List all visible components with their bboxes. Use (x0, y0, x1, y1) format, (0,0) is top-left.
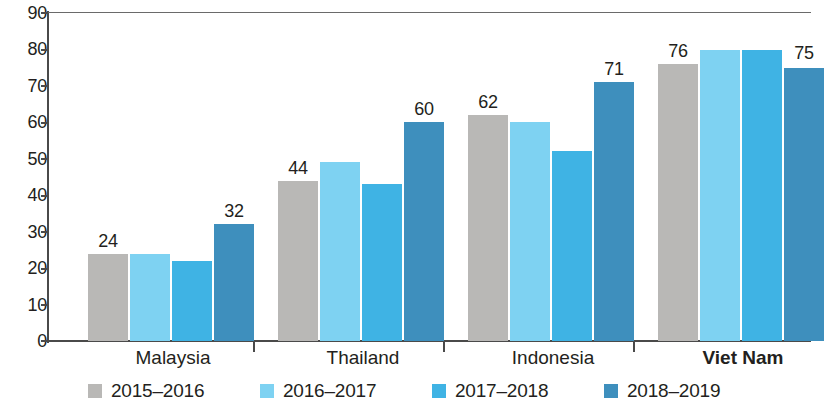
legend-swatch-icon-2015-2016 (88, 384, 102, 398)
legend-item-2016-2017[interactable]: 2016–2017 (260, 378, 376, 403)
legend-label-2017-2018: 2017–2018 (455, 381, 548, 400)
bar-indonesia-2017-2018[interactable] (552, 151, 592, 341)
x-axis-label-thailand: Thailand (263, 347, 463, 369)
data-label-thailand-2015-2016: 44 (272, 159, 324, 177)
bar-viet-nam-2017-2018[interactable] (742, 50, 782, 341)
legend-item-2015-2016[interactable]: 2015–2016 (88, 378, 204, 403)
bar-malaysia-2017-2018[interactable] (172, 261, 212, 341)
legend: 2015–2016 2016–2017 2017–2018 2018–2019 (0, 378, 815, 403)
data-label-thailand-2018-2019: 60 (398, 100, 450, 118)
bar-malaysia-2015-2016[interactable] (88, 254, 128, 341)
data-label-malaysia-2015-2016: 24 (82, 232, 134, 250)
bar-viet-nam-2015-2016[interactable] (658, 64, 698, 341)
y-axis: 90 80 70 60 50 40 30 20 10 0 (0, 0, 47, 403)
data-label-viet-nam-2015-2016: 76 (652, 42, 704, 60)
bar-thailand-2016-2017[interactable] (320, 162, 360, 341)
legend-item-2018-2019[interactable]: 2018–2019 (604, 378, 720, 403)
bar-thailand-2015-2016[interactable] (278, 181, 318, 341)
bar-malaysia-2016-2017[interactable] (130, 254, 170, 341)
bar-malaysia-2018-2019[interactable] (214, 224, 254, 341)
legend-swatch-icon-2018-2019 (604, 384, 618, 398)
bar-thailand-2017-2018[interactable] (362, 184, 402, 341)
bar-viet-nam-2016-2017[interactable] (700, 50, 740, 341)
bar-group-malaysia (88, 13, 258, 341)
legend-item-2017-2018[interactable]: 2017–2018 (432, 378, 548, 403)
data-label-indonesia-2018-2019: 71 (588, 60, 640, 78)
legend-label-2015-2016: 2015–2016 (111, 381, 204, 400)
bar-indonesia-2016-2017[interactable] (510, 122, 550, 341)
legend-label-2016-2017: 2016–2017 (283, 381, 376, 400)
data-label-indonesia-2015-2016: 62 (462, 93, 514, 111)
legend-swatch-icon-2017-2018 (432, 384, 446, 398)
x-axis-label-indonesia: Indonesia (453, 347, 653, 369)
plot-area (48, 13, 810, 341)
bar-thailand-2018-2019[interactable] (404, 122, 444, 341)
bar-indonesia-2015-2016[interactable] (468, 115, 508, 341)
legend-label-2018-2019: 2018–2019 (627, 381, 720, 400)
x-axis-label-viet-nam: Viet Nam (643, 347, 828, 369)
bar-viet-nam-2018-2019[interactable] (784, 68, 824, 341)
legend-swatch-icon-2016-2017 (260, 384, 274, 398)
bar-indonesia-2018-2019[interactable] (594, 82, 634, 341)
x-axis-label-malaysia: Malaysia (73, 347, 273, 369)
data-label-viet-nam-2018-2019: 75 (778, 44, 828, 62)
data-label-malaysia-2018-2019: 32 (208, 202, 260, 220)
